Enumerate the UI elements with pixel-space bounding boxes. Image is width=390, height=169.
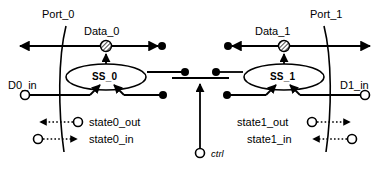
state0-in-circle[interactable] bbox=[34, 135, 43, 144]
ss1-label: SS_1 bbox=[270, 71, 295, 83]
data0-label: Data_0 bbox=[84, 25, 119, 37]
port1-boundary-curve bbox=[324, 26, 330, 152]
d0-feed-dot bbox=[159, 91, 167, 99]
diagram-canvas: Port_0 Port_1 Data_0 Data_1 SS_0 SS_1 D0… bbox=[0, 0, 390, 169]
state0-out-label: state0_out bbox=[89, 116, 140, 128]
d1-feed-dot bbox=[223, 91, 231, 99]
ss0-label: SS_0 bbox=[92, 71, 117, 83]
data1-label: Data_1 bbox=[255, 25, 290, 37]
ctrl-label: ctrl bbox=[211, 148, 224, 160]
data0-line-end-dot bbox=[158, 42, 166, 50]
state1-in-circle[interactable] bbox=[348, 135, 357, 144]
port1-label: Port_1 bbox=[310, 8, 342, 20]
state0-in-label: state0_in bbox=[89, 133, 134, 145]
port0-boundary-curve bbox=[60, 26, 66, 152]
d0in-port-circle[interactable] bbox=[21, 91, 30, 100]
data0-node-marker bbox=[101, 41, 112, 52]
state0-out-circle[interactable] bbox=[74, 118, 83, 127]
data1-line-end-dot bbox=[224, 42, 232, 50]
ss1-left-dot bbox=[212, 68, 220, 76]
port0-label: Port_0 bbox=[42, 8, 74, 20]
data1-node-marker bbox=[279, 41, 290, 52]
d1in-port-circle[interactable] bbox=[361, 91, 370, 100]
ctrl-port-circle[interactable] bbox=[196, 149, 205, 158]
ss0-right-dot bbox=[181, 68, 189, 76]
state1-out-circle[interactable] bbox=[308, 118, 317, 127]
state1-in-label: state1_in bbox=[247, 133, 292, 145]
d0in-label: D0_in bbox=[8, 79, 37, 91]
diagram-vector-layer bbox=[0, 0, 390, 169]
d1in-label: D1_in bbox=[340, 79, 369, 91]
state1-out-label: state1_out bbox=[237, 116, 288, 128]
